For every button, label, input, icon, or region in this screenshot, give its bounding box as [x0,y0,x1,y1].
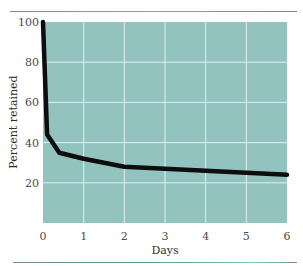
x-tick-label: 5 [243,230,250,243]
x-tick-label: 6 [284,230,291,243]
x-tick-label: 4 [202,230,209,243]
x-tick-label: 3 [162,230,169,243]
x-axis-label: Days [151,244,179,257]
x-tick-label: 1 [80,230,87,243]
y-axis-ticks: 20406080100 [18,16,39,190]
x-tick-label: 0 [40,230,47,243]
y-tick-label: 20 [25,177,39,190]
y-axis-label: Percent retained [7,75,20,168]
y-tick-label: 40 [25,137,39,150]
x-axis-ticks: 0123456 [40,230,291,243]
y-tick-label: 80 [25,56,39,69]
x-tick-label: 2 [121,230,128,243]
y-tick-label: 100 [18,16,39,29]
y-tick-label: 60 [25,96,39,109]
bottom-rule [13,262,297,263]
retention-line-chart: 20406080100 0123456 Percent retained Day… [0,0,303,266]
